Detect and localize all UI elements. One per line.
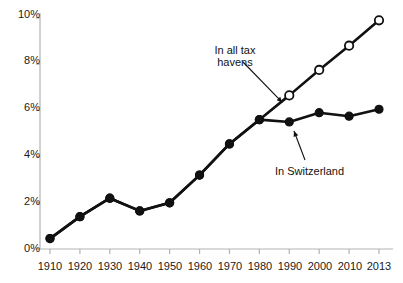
y-tick-label-6: 6% — [2, 101, 40, 113]
annotation-switzerland: In Switzerland — [275, 165, 344, 177]
chart-plot-area — [0, 0, 403, 283]
x-tick-label-2013: 2013 — [357, 260, 401, 272]
y-tick-label-10: 10% — [2, 8, 40, 20]
annotation-arrows — [243, 62, 305, 160]
annotation-tax-havens: In all tax havens — [190, 44, 280, 68]
chart-container: 10% 8% 6% 4% 2% 0% 1910 1920 1930 1940 1… — [0, 0, 403, 283]
y-tick-label-0: 0% — [2, 242, 40, 254]
annotation-tax-havens-line2: havens — [190, 56, 280, 68]
y-tick-label-4: 4% — [2, 148, 40, 160]
y-tick-label-2: 2% — [2, 195, 40, 207]
annotation-tax-havens-line1: In all tax — [190, 44, 280, 56]
y-tick-label-8: 8% — [2, 54, 40, 66]
